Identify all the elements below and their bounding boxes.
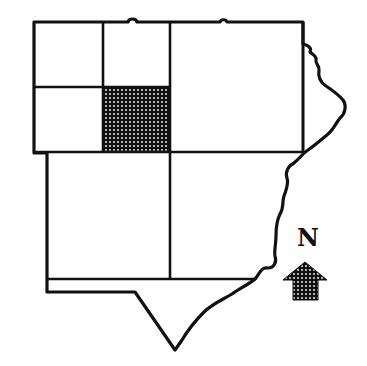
north-arrow-icon xyxy=(283,262,327,300)
highlighted-region xyxy=(103,87,170,152)
locator-map: N xyxy=(0,0,367,366)
compass-label: N xyxy=(296,226,320,250)
